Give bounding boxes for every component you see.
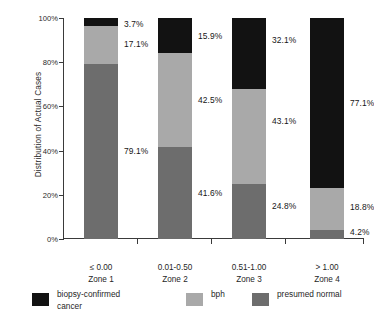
segment-bph[interactable] [232,89,266,184]
segment-label-normal: 79.1% [124,146,148,156]
y-tick-label: 60% [43,102,58,111]
legend-label-line2: cancer [57,301,120,313]
y-tick-mark [59,239,64,240]
bar-zone-2[interactable]: 15.9% 42.5% 41.6% [158,18,192,239]
y-tick-label: 0% [47,235,58,244]
segment-bph[interactable] [310,188,344,230]
bar-zone-1[interactable]: 3.7% 17.1% 79.1% [84,18,118,239]
legend-swatch-normal-icon [252,293,269,306]
segment-label-normal: 24.8% [272,201,296,211]
x-category-range: > 1.00 [281,262,373,274]
segment-label-normal: 4.2% [350,227,370,237]
y-tick-mark [59,151,64,152]
segment-label-normal: 41.6% [198,188,222,198]
segment-bph[interactable] [158,53,192,147]
x-tick-mark [137,239,138,244]
x-tick-mark [285,239,286,244]
bar-zone-4[interactable]: 77.1% 18.8% 4.2% [310,18,344,239]
legend-label-bph: bph [211,289,225,301]
x-category-zone: Zone 4 [281,274,373,286]
segment-cancer[interactable] [84,18,118,26]
segment-normal[interactable] [84,64,118,239]
y-axis-title: Distribution of Actual Cases [34,30,43,220]
segment-cancer[interactable] [310,18,344,188]
x-tick-mark [211,239,212,244]
segment-bph[interactable] [84,26,118,64]
legend-label-line1: presumed normal [277,289,342,299]
segment-normal[interactable] [310,230,344,239]
y-tick-label: 80% [43,58,58,67]
y-tick-mark [59,62,64,63]
segment-normal[interactable] [158,147,192,239]
legend-label-line1: biopsy-confirmed [57,289,120,299]
chart-legend: biopsy-confirmed cancer bph presumed nor… [0,289,373,328]
legend-swatch-bph-icon [186,293,203,306]
legend-label-normal: presumed normal [277,289,342,301]
segment-cancer[interactable] [158,18,192,53]
y-tick-label: 40% [43,146,58,155]
segment-label-bph: 18.8% [350,202,374,212]
plot-area: 100% 80% 60% 40% 20% 0% [63,18,364,239]
segment-label-cancer: 3.7% [124,19,144,29]
bar-zone-3[interactable]: 32.1% 43.1% 24.8% [232,18,266,239]
legend-label-line1: bph [211,289,225,299]
y-tick-mark [59,18,64,19]
y-tick-mark [59,106,64,107]
segment-label-cancer: 77.1% [350,98,374,108]
segment-label-cancer: 32.1% [272,35,296,45]
legend-swatch-cancer-icon [32,293,49,306]
y-tick-label: 100% [39,14,58,23]
segment-label-bph: 17.1% [124,39,148,49]
y-tick-mark [59,195,64,196]
segment-normal[interactable] [232,184,266,239]
segment-label-bph: 42.5% [198,95,222,105]
x-tick-mark [363,239,364,244]
x-category-zone-4: > 1.00 Zone 4 [281,262,373,285]
legend-label-cancer: biopsy-confirmed cancer [57,289,120,312]
segment-label-bph: 43.1% [272,116,296,126]
segment-label-cancer: 15.9% [198,31,222,41]
y-tick-label: 20% [43,190,58,199]
segment-cancer[interactable] [232,18,266,89]
